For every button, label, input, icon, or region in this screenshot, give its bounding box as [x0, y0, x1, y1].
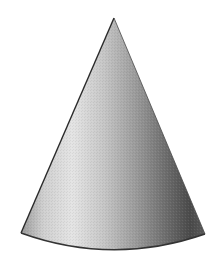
cone-texture: [21, 18, 205, 250]
cone-illustration: [0, 0, 221, 279]
figure-canvas: cone: [0, 0, 221, 279]
